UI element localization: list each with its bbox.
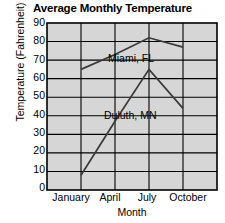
- plot-background: [47, 23, 217, 190]
- series-label-miami: Miami, FL: [108, 52, 154, 64]
- x-tick-label-january: January: [52, 191, 89, 203]
- x-tick-label-october: October: [169, 191, 206, 203]
- x-tick-label-april: April: [99, 191, 120, 203]
- series-label-duluth: Duluth, MN: [104, 109, 157, 121]
- x-axis-title: Month: [47, 206, 217, 218]
- x-tick-label-july: July: [138, 191, 157, 203]
- chart-container: Average Monthly Temperature Temperature …: [0, 0, 225, 223]
